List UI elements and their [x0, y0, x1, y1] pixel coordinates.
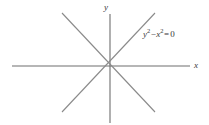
- graph-figure: y x y2−x2=0: [0, 0, 209, 125]
- coordinate-plot-svg: [0, 0, 209, 125]
- equation-equals-operator: =: [164, 29, 170, 39]
- equation-annotation: y2−x2=0: [143, 30, 175, 39]
- x-axis-label: x: [194, 61, 198, 70]
- y-axis-label: y: [104, 3, 108, 12]
- equation-right-hand-side: 0: [170, 29, 176, 39]
